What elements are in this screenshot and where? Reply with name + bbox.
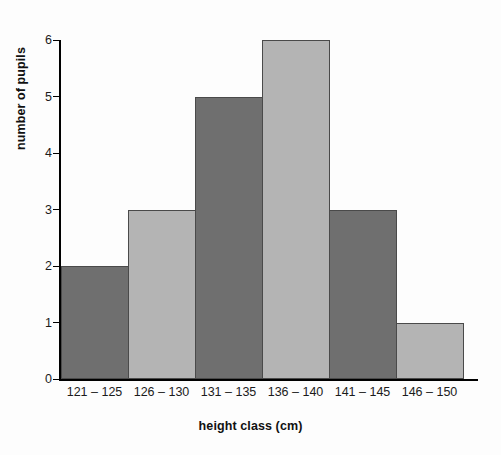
x-axis-tick-label: 126 – 130 [128, 386, 195, 399]
y-axis-tick-label: 0 [30, 373, 52, 386]
histogram-bar [128, 210, 196, 380]
y-axis-tick-label: 3 [30, 204, 52, 217]
y-axis-tick-mark [53, 96, 60, 97]
histogram-bar [329, 210, 397, 380]
x-axis-title: height class (cm) [0, 419, 501, 433]
histogram-bar [195, 97, 263, 380]
histogram-bar [61, 266, 129, 379]
x-axis-tick-label: 136 – 140 [262, 386, 329, 399]
y-axis-tick-mark [53, 153, 60, 154]
y-axis-tick-label: 2 [30, 260, 52, 273]
y-axis-tick-mark [53, 379, 60, 380]
y-axis-tick-mark [53, 40, 60, 41]
x-axis-tick-label: 121 – 125 [61, 386, 128, 399]
y-axis-tick-mark [53, 322, 60, 323]
y-axis-tick-label: 6 [30, 34, 52, 47]
y-axis-tick-label: 4 [30, 147, 52, 160]
x-axis-line [59, 379, 478, 381]
y-axis-tick-label: 5 [30, 91, 52, 104]
y-axis-title: number of pupils [14, 10, 28, 150]
y-axis-tick-label: 1 [30, 317, 52, 330]
x-axis-tick-label: 146 – 150 [396, 386, 463, 399]
histogram-bar [396, 323, 464, 380]
y-axis-tick-mark [53, 209, 60, 210]
x-axis-tick-label: 141 – 145 [329, 386, 396, 399]
y-axis-tick-mark [53, 266, 60, 267]
histogram-figure: 0123456 number of pupils 121 – 125126 – … [0, 0, 501, 455]
plot-area [61, 40, 463, 379]
x-axis-tick-label: 131 – 135 [195, 386, 262, 399]
histogram-bar [262, 40, 330, 379]
